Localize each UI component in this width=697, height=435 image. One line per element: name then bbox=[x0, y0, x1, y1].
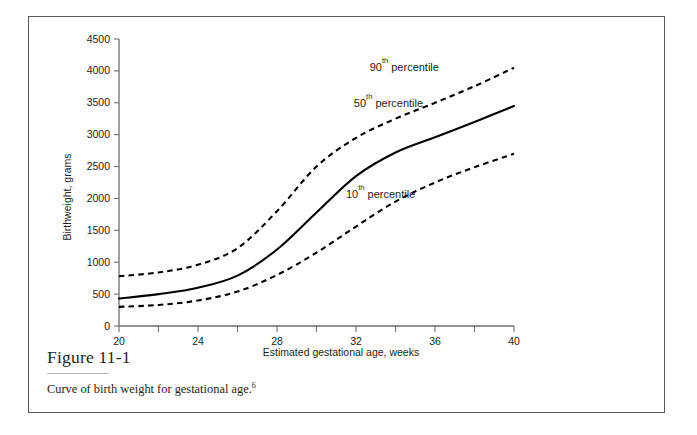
y-tick-label: 0 bbox=[104, 320, 110, 332]
percentile-curve-label: 10th percentile bbox=[346, 182, 415, 200]
x-tick-label: 36 bbox=[429, 335, 441, 347]
figure-panel: 050010001500200025003000350040004500 202… bbox=[28, 16, 665, 413]
y-tick-label: 4500 bbox=[87, 33, 111, 45]
figure-number: Figure 11-1 bbox=[47, 347, 467, 373]
x-tick-label: 20 bbox=[113, 335, 125, 347]
curve-annotations: 90th percentile50th percentile10th perce… bbox=[346, 55, 439, 199]
y-tick-label: 3500 bbox=[87, 96, 111, 108]
percentile-curve bbox=[119, 68, 514, 277]
percentile-curves bbox=[119, 68, 514, 307]
percentile-curve bbox=[119, 154, 514, 307]
caption-sentence: Curve of birth weight for gestational ag… bbox=[47, 383, 252, 397]
y-axis-tick-labels: 050010001500200025003000350040004500 bbox=[87, 33, 111, 332]
axes bbox=[119, 39, 514, 326]
caption-divider bbox=[47, 373, 109, 374]
figure-caption-text: Curve of birth weight for gestational ag… bbox=[47, 381, 467, 398]
y-tick-label: 1500 bbox=[87, 224, 111, 236]
axis-ticks bbox=[114, 39, 514, 332]
x-tick-label: 40 bbox=[508, 335, 520, 347]
birthweight-gestational-age-chart: 050010001500200025003000350040004500 202… bbox=[29, 17, 589, 369]
y-tick-label: 1000 bbox=[87, 256, 111, 268]
x-tick-label: 24 bbox=[192, 335, 204, 347]
y-tick-label: 500 bbox=[92, 288, 110, 300]
y-tick-label: 2000 bbox=[87, 192, 111, 204]
y-tick-label: 4000 bbox=[87, 64, 111, 76]
y-tick-label: 3000 bbox=[87, 128, 111, 140]
caption-reference-superscript: 6 bbox=[252, 381, 256, 390]
chart-plot-area: 050010001500200025003000350040004500 202… bbox=[29, 17, 589, 369]
y-axis-title: Birthweight, grams bbox=[61, 154, 73, 241]
percentile-curve-label: 90th percentile bbox=[370, 55, 439, 72]
y-tick-label: 2500 bbox=[87, 160, 111, 172]
figure-caption-block: Figure 11-1 Curve of birth weight for ge… bbox=[47, 347, 467, 398]
percentile-curve-label: 50th percentile bbox=[354, 92, 423, 110]
